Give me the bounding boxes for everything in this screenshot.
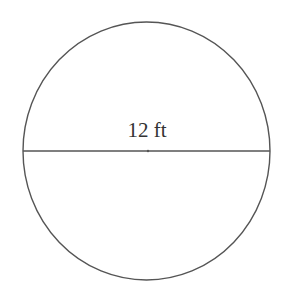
diameter-label: 12 ft (127, 118, 166, 142)
circle-diagram: 12 ft (0, 0, 284, 301)
center-point (147, 150, 149, 152)
